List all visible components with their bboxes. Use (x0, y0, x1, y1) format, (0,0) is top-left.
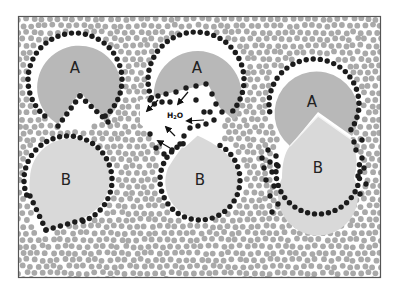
diagram-canvas: A A A B B B H2O (0, 0, 394, 295)
label-a-left: A (70, 59, 81, 77)
label-a-center: A (192, 59, 203, 77)
label-a-right: A (307, 93, 318, 111)
label-b-left: B (61, 171, 71, 189)
label-b-center: B (195, 171, 205, 189)
label-b-right: B (313, 159, 323, 177)
diagram-stage: A A A B B B H2O (0, 0, 394, 295)
